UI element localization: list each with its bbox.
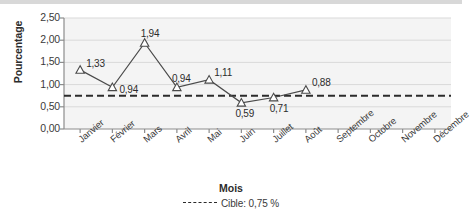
data-point-label: 1,94 — [141, 28, 160, 39]
data-point-label: 0,94 — [119, 84, 138, 95]
legend-entry-label: Cible: 0,75 % — [221, 198, 279, 209]
data-point-label: 0,59 — [235, 108, 254, 119]
data-point-label: 0,71 — [270, 103, 289, 114]
legend-dashed-line-swatch — [183, 198, 217, 208]
data-point-label: 1,11 — [214, 67, 232, 78]
data-point-label: 0,88 — [312, 77, 331, 88]
data-point-label: 0,94 — [172, 73, 191, 84]
data-point-label: 1,33 — [86, 58, 105, 69]
legend: Cible: 0,75 % — [0, 197, 462, 209]
x-axis-title: Mois — [0, 182, 462, 194]
